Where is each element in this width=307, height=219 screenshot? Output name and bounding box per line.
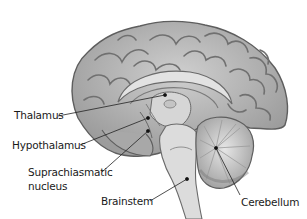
cerebellum-dot <box>214 146 217 149</box>
brainstem-dot <box>185 177 188 180</box>
label-hypothalamus: Hypothalamus <box>12 139 86 152</box>
label-suprachiasmatic-line1: Suprachiasmatic <box>28 166 112 179</box>
suprachiasmatic-dot <box>146 129 149 132</box>
label-cerebellum: Cerebellum <box>241 196 299 209</box>
label-thalamus: Thalamus <box>14 109 64 122</box>
cerebellum <box>196 117 254 188</box>
hypothalamus-dot <box>146 116 149 119</box>
thalamus-dot <box>163 93 166 96</box>
label-suprachiasmatic-line2: nucleus <box>28 180 67 193</box>
label-brainstem: Brainstem <box>101 195 153 208</box>
brain-diagram: Thalamus Hypothalamus Suprachiasmatic nu… <box>0 0 307 219</box>
